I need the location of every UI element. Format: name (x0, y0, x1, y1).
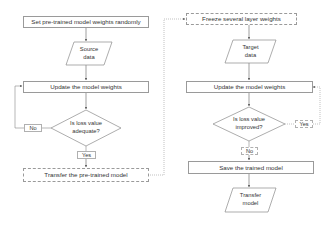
transfer-model-line2: model (243, 200, 259, 208)
target-data-label: Target data (225, 40, 276, 63)
transfer-model-label: Transfer model (225, 188, 276, 212)
loss-adequate-decision-text: Is loss value adequate? (56, 118, 116, 138)
decision-left-line2: adequate? (72, 128, 99, 136)
target-data-line1: Target (242, 44, 258, 52)
yes-branch-label-right: Yes (295, 120, 313, 128)
no-branch-label-left: No (24, 124, 42, 132)
target-data-line2: data (245, 52, 256, 60)
save-trained-model-step: Save the trained model (188, 161, 314, 174)
update-weights-step-right: Update the model weights (186, 81, 313, 93)
decision-left-line1: Is loss value (70, 120, 102, 128)
no-branch-label-right: No (241, 147, 258, 155)
update-weights-step-left: Update the model weights (23, 81, 149, 93)
decision-right-line2: improved? (235, 124, 262, 132)
transfer-pretrained-model-step: Transfer the pre-trained model (23, 168, 149, 182)
yes-branch-label-left: Yes (77, 151, 96, 159)
freeze-layer-weights-step: Freeze several layer weights (186, 13, 297, 25)
loss-improved-decision-text: Is loss value improved? (219, 114, 279, 134)
decision-right-line1: Is loss value (233, 116, 265, 124)
flowchart-connectors (0, 0, 333, 226)
set-weights-randomly-step: Set pre-trained model weights randomly (23, 16, 149, 28)
source-data-line2: data (83, 54, 94, 62)
source-data-label: Source data (66, 42, 112, 65)
source-data-line1: Source (80, 46, 98, 54)
transfer-model-line1: Transfer (240, 192, 261, 200)
